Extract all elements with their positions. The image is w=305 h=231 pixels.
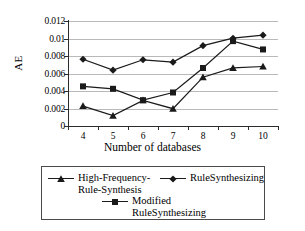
x-axis-title: Number of databases [0,141,305,153]
legend-label: High-Frequency- Rule-Synthesis [74,172,150,195]
gridline [68,21,278,22]
y-tick-label: 0.004 [45,86,65,96]
plot-area [68,21,278,126]
y-tick-label: 0.012 [45,16,65,26]
x-tick-mark [68,126,69,130]
legend-label: Modified RuleSynthesizing [128,195,206,218]
gridline [68,91,278,92]
legend-key-square [102,196,128,207]
chart-figure: 00.0020.0040.0060.0080.010.012 45678910 … [0,0,305,231]
x-tick-mark [158,126,159,130]
x-tick-label: 6 [141,131,146,141]
x-tick-mark [188,126,189,130]
x-tick-mark [248,126,249,130]
y-tick-mark [64,39,68,40]
gridline [68,39,278,40]
y-tick-label: 0.01 [49,34,65,44]
legend-entry[interactable]: RuleSynthesizing [160,172,264,184]
triangle-icon [56,173,67,184]
x-tick-label: 5 [111,131,116,141]
gridline [68,109,278,110]
y-tick-mark [64,74,68,75]
x-tick-mark [128,126,129,130]
y-tick-mark [64,91,68,92]
y-axis-line [68,20,69,127]
x-tick-label: 4 [81,131,86,141]
x-tick-label: 7 [171,131,176,141]
y-tick-mark [64,56,68,57]
legend-key-triangle [48,173,74,184]
x-tick-mark [98,126,99,130]
x-tick-label: 8 [201,131,206,141]
y-tick-label: 0.006 [45,69,65,79]
diamond-icon [168,173,179,184]
legend-entry[interactable]: Modified RuleSynthesizing [102,195,206,218]
chart-legend: High-Frequency- Rule-SynthesisRuleSynthe… [41,166,265,220]
gridline [68,56,278,57]
y-tick-label: 0.002 [45,104,65,114]
y-tick-mark [64,126,68,127]
legend-key-diamond [160,173,186,184]
legend-label: RuleSynthesizing [186,172,264,184]
square-marker [112,199,118,205]
x-tick-mark [278,126,279,130]
y-tick-label: 0.008 [45,51,65,61]
x-tick-label: 9 [231,131,236,141]
diamond-marker [169,175,176,182]
x-tick-mark [218,126,219,130]
triangle-marker [57,175,65,182]
gridline [68,74,278,75]
y-tick-mark [64,21,68,22]
x-tick-label: 10 [258,131,268,141]
y-tick-mark [64,109,68,110]
legend-entry[interactable]: High-Frequency- Rule-Synthesis [48,172,150,195]
square-icon [110,196,121,207]
y-axis-title: AE [12,41,24,85]
